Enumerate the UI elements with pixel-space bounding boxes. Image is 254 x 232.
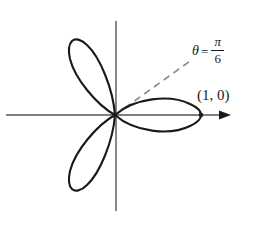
- theta-symbol: θ: [192, 44, 201, 58]
- fraction-numerator: π: [212, 35, 223, 50]
- rose-petal-upper-left: [69, 39, 115, 115]
- fraction-denominator: 6: [212, 51, 223, 66]
- theta-angle-label: θ = π 6: [192, 36, 224, 66]
- polar-rose-figure: θ = π 6 (1, 0): [0, 0, 254, 232]
- equals-sign: =: [201, 45, 211, 58]
- unit-point-marker: [199, 113, 204, 118]
- pi-over-six-fraction: π 6: [211, 35, 224, 65]
- unit-point-label: (1, 0): [197, 88, 230, 103]
- origin-marker: [113, 113, 117, 117]
- rose-petal-lower-left: [69, 115, 115, 191]
- x-axis-arrowhead: [219, 110, 231, 119]
